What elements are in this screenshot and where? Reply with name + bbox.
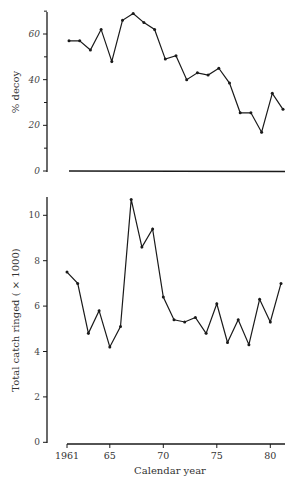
decoy-percentage-panel: 0204060 % decoy bbox=[10, 11, 285, 176]
data-point bbox=[108, 345, 111, 348]
top-zero-baseline bbox=[69, 171, 285, 172]
total-catch-points bbox=[66, 198, 283, 349]
top-y-axis-label: % decoy bbox=[10, 71, 21, 114]
data-point bbox=[185, 78, 188, 81]
bottom-y-ticks: 0246810 bbox=[29, 210, 47, 447]
data-point bbox=[239, 111, 242, 114]
data-point bbox=[164, 58, 167, 61]
top-tick-label: 20 bbox=[28, 120, 41, 130]
data-point bbox=[175, 54, 178, 57]
data-point bbox=[78, 39, 81, 42]
data-point bbox=[260, 131, 263, 134]
data-point bbox=[100, 28, 103, 31]
data-point bbox=[196, 71, 199, 74]
x-tick-label: 80 bbox=[264, 450, 276, 461]
data-point bbox=[68, 39, 71, 42]
top-y-ticks: 0204060 bbox=[28, 11, 47, 176]
top-tick-label: 0 bbox=[34, 166, 40, 176]
data-point bbox=[132, 12, 135, 15]
bottom-y-axis-label: Total catch ringed ( × 1000) bbox=[10, 248, 21, 391]
data-point bbox=[162, 296, 165, 299]
x-ticks: 196165707580 bbox=[55, 444, 276, 461]
data-point bbox=[66, 271, 69, 274]
data-point bbox=[153, 28, 156, 31]
data-point bbox=[119, 325, 122, 328]
x-tick-label: 65 bbox=[104, 450, 116, 461]
total-catch-panel: 0246810 196165707580 Total catch ringed … bbox=[10, 197, 285, 476]
decoy-percentage-line bbox=[69, 13, 283, 132]
x-tick-label: 1961 bbox=[55, 450, 79, 461]
data-point bbox=[228, 82, 231, 85]
bottom-tick-label: 10 bbox=[29, 210, 41, 220]
data-point bbox=[151, 227, 154, 230]
data-point bbox=[173, 318, 176, 321]
data-point bbox=[280, 282, 283, 285]
data-point bbox=[98, 309, 101, 312]
top-tick-label: 60 bbox=[29, 29, 41, 39]
total-catch-line bbox=[67, 199, 281, 347]
data-point bbox=[121, 19, 124, 22]
data-point bbox=[130, 198, 133, 201]
data-point bbox=[183, 320, 186, 323]
data-point bbox=[226, 341, 229, 344]
data-point bbox=[271, 92, 274, 95]
bottom-tick-label: 0 bbox=[34, 437, 40, 447]
data-point bbox=[142, 21, 145, 24]
bottom-tick-label: 8 bbox=[34, 256, 40, 266]
bottom-tick-label: 2 bbox=[34, 392, 40, 402]
data-point bbox=[140, 246, 143, 249]
data-point bbox=[194, 316, 197, 319]
x-tick-label: 70 bbox=[157, 450, 169, 461]
data-point bbox=[249, 111, 252, 114]
data-point bbox=[237, 318, 240, 321]
data-point bbox=[215, 302, 218, 305]
data-point bbox=[269, 320, 272, 323]
data-point bbox=[282, 108, 285, 111]
data-point bbox=[89, 48, 92, 51]
bottom-tick-label: 4 bbox=[34, 347, 40, 357]
data-point bbox=[258, 298, 261, 301]
data-point bbox=[247, 343, 250, 346]
data-point bbox=[87, 332, 90, 335]
data-point bbox=[205, 332, 208, 335]
x-axis-label: Calendar year bbox=[134, 465, 206, 476]
data-point bbox=[217, 67, 220, 70]
data-point bbox=[110, 60, 113, 63]
bottom-tick-label: 6 bbox=[34, 301, 40, 311]
data-point bbox=[76, 282, 79, 285]
figure: 0204060 % decoy 0246810 196165707580 Tot… bbox=[0, 0, 296, 478]
x-tick-label: 75 bbox=[211, 450, 223, 461]
data-point bbox=[207, 74, 210, 77]
chart-canvas: 0204060 % decoy 0246810 196165707580 Tot… bbox=[0, 0, 296, 478]
top-tick-label: 40 bbox=[28, 75, 41, 85]
